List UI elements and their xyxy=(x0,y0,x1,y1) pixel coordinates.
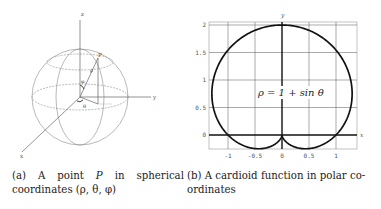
y-axis-label: y xyxy=(280,11,285,19)
x-tick-label: 0 xyxy=(280,152,284,159)
x-axis-label: x xyxy=(360,131,364,138)
point-p-label: P xyxy=(98,52,102,58)
y-tick-label: 1 xyxy=(202,76,206,83)
figure-spherical-coordinates: P z y x φ θ ρ xyxy=(0,0,190,165)
caption-b-line2: ordinates xyxy=(187,183,377,197)
phi-label: φ xyxy=(81,78,85,85)
cardioid-plot: -1-0.500.5100.511.52 y x ρ = 1 + sin θ xyxy=(190,0,381,165)
grid-lines xyxy=(209,22,357,149)
y-tick-label: 1.5 xyxy=(195,49,206,56)
caption-a: (a) A point P in spherical coordinates (… xyxy=(12,169,184,197)
caption-word: A xyxy=(38,169,45,183)
caption-b: (b) A cardioid function in polar co- ord… xyxy=(187,169,377,197)
y-tick-label: 2 xyxy=(202,21,206,28)
y-tick-label: 0.5 xyxy=(195,104,206,111)
equation-label: ρ = 1 + sin θ xyxy=(257,87,324,98)
theta-arc xyxy=(77,100,83,102)
caption-word: point xyxy=(57,169,84,183)
caption-b-line1: (b) A cardioid function in polar co- xyxy=(187,169,377,183)
caption-word: in xyxy=(115,169,125,183)
caption-a-line1: (a) A point P in spherical xyxy=(12,169,184,183)
caption-word: (a) xyxy=(12,169,26,183)
caption-word: P xyxy=(96,169,103,183)
y-tick-label: 0 xyxy=(202,131,206,138)
theta-label: θ xyxy=(83,103,86,109)
z-axis-label: z xyxy=(81,11,84,17)
caption-word: spherical xyxy=(136,169,184,183)
x-tick-label: 1 xyxy=(334,152,338,159)
figure-cardioid-chart: -1-0.500.5100.511.52 y x ρ = 1 + sin θ xyxy=(190,0,381,165)
x-tick-label: -0.5 xyxy=(248,152,263,159)
caption-a-line2: coordinates (ρ, θ, φ) xyxy=(12,183,184,197)
x-axis-label: x xyxy=(20,153,24,159)
y-axis-label: y xyxy=(152,94,157,101)
x-tick-label: 0.5 xyxy=(304,152,315,159)
phi-arc xyxy=(80,85,84,89)
plot-frame xyxy=(209,22,357,149)
sphere-diagram: P z y x φ θ ρ xyxy=(0,0,190,165)
x-axis xyxy=(22,97,80,152)
rho-label: ρ xyxy=(90,67,93,74)
x-tick-label: -1 xyxy=(224,152,232,159)
